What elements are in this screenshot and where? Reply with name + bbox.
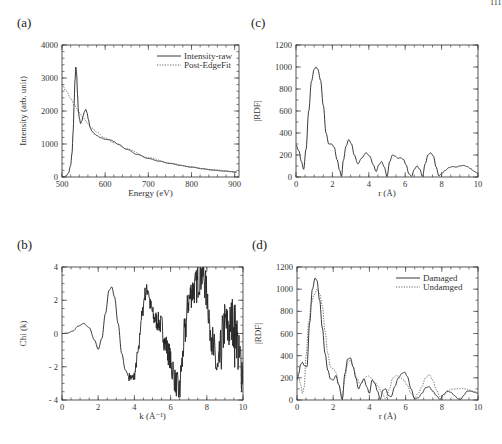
- y-tick-label: 1000: [275, 62, 292, 72]
- y-tick-label: 600: [279, 106, 292, 116]
- y-tick-label: 200: [280, 373, 293, 383]
- x-tick-label: 10: [474, 179, 483, 189]
- x-tick-label: 8: [440, 402, 444, 412]
- x-tick-label: 2: [331, 402, 335, 412]
- series-chi-k-: [62, 241, 243, 397]
- y-tick-label: 3000: [41, 73, 58, 83]
- y-tick-label: 200: [279, 150, 292, 160]
- series-damaged: [297, 278, 478, 399]
- x-tick-label: 4: [367, 179, 372, 189]
- x-tick-label: 4: [132, 402, 137, 412]
- x-tick-label: 4: [367, 402, 372, 412]
- plot-frame: [62, 267, 243, 400]
- y-tick-label: 400: [279, 128, 292, 138]
- y-tick-label: 4: [54, 262, 59, 272]
- y-tick-label: 1000: [41, 139, 58, 149]
- y-tick-label: 2000: [41, 106, 58, 116]
- panel-d: (d)0246810020040060080010001200r (Å)|RDF…: [252, 237, 482, 421]
- y-axis-label: |RDF|: [252, 100, 262, 121]
- x-tick-label: 8: [205, 402, 209, 412]
- y-tick-label: 4000: [41, 40, 58, 50]
- x-tick-label: 800: [185, 179, 198, 189]
- page-number-fragment: 111: [490, 0, 501, 7]
- y-tick-label: 2: [54, 295, 58, 305]
- panel-label: (c): [251, 15, 265, 30]
- x-axis-label: r (Å): [379, 411, 397, 421]
- x-tick-label: 10: [239, 402, 248, 412]
- y-axis-label: Chi (k): [18, 321, 28, 347]
- y-tick-label: 1000: [276, 284, 293, 294]
- y-tick-label: 600: [280, 329, 293, 339]
- y-tick-label: 0: [288, 172, 292, 182]
- figure: 111 (a)50060070080090001000200030004000E…: [0, 0, 502, 444]
- x-tick-label: 2: [96, 402, 100, 412]
- y-tick-label: 0: [54, 329, 58, 339]
- x-tick-label: 6: [168, 402, 172, 412]
- x-tick-label: 6: [403, 402, 407, 412]
- y-tick-label: 800: [280, 306, 293, 316]
- y-tick-label: 0: [289, 395, 293, 405]
- x-tick-label: 600: [99, 179, 112, 189]
- plot-frame: [296, 45, 478, 177]
- series-intensity-raw: [62, 67, 237, 177]
- y-tick-label: 0: [54, 172, 58, 182]
- y-tick-label: 400: [280, 351, 293, 361]
- x-tick-label: 6: [403, 179, 407, 189]
- y-tick-label: - 2: [49, 362, 58, 372]
- panel-c: (c)0246810020040060080010001200r (Å)|RDF…: [251, 15, 482, 198]
- y-tick-label: - 4: [49, 395, 59, 405]
- y-tick-label: 1200: [275, 40, 292, 50]
- x-tick-label: 8: [439, 179, 443, 189]
- x-tick-label: 900: [228, 179, 241, 189]
- x-tick-label: 0: [294, 179, 298, 189]
- x-tick-label: 0: [60, 402, 64, 412]
- y-tick-label: 1200: [276, 262, 293, 272]
- legend-label: Post-EdgeFit: [184, 60, 232, 70]
- y-axis-label: Intensity (arb. unit): [18, 76, 28, 146]
- y-axis-label: |RDF|: [253, 323, 263, 344]
- panel-a: (a)50060070080090001000200030004000Energ…: [17, 15, 241, 198]
- y-tick-label: 800: [279, 84, 292, 94]
- legend-label: Undamged: [423, 282, 463, 292]
- x-tick-label: 0: [295, 402, 299, 412]
- x-axis-label: k (Å⁻¹): [139, 411, 166, 421]
- panel-label: (a): [17, 15, 31, 30]
- series--rdf-: [296, 67, 478, 176]
- x-tick-label: 2: [330, 179, 334, 189]
- x-axis-label: Energy (eV): [128, 188, 173, 198]
- panel-label: (b): [17, 237, 32, 252]
- panel-b: (b)0246810- 4- 2024k (Å⁻¹)Chi (k): [17, 237, 247, 421]
- x-tick-label: 10: [474, 402, 483, 412]
- panel-label: (d): [252, 237, 267, 252]
- x-axis-label: r (Å): [378, 188, 396, 198]
